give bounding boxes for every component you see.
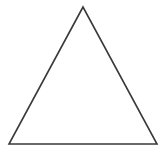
triangle-figure — [0, 0, 165, 161]
canvas-background — [0, 0, 165, 161]
drawing-canvas — [0, 0, 165, 161]
